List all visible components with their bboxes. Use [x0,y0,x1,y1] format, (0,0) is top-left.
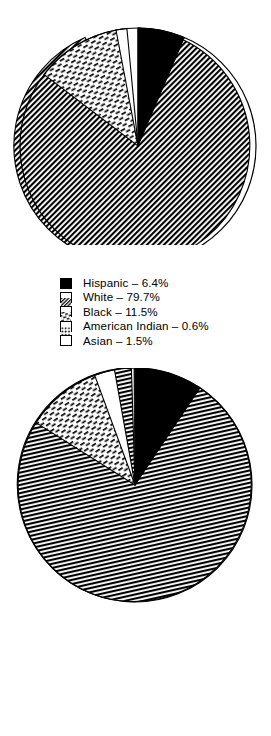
legend-1-row-hispanic: Hispanic – 6.4% [60,276,260,290]
legend-swatch-hispanic-icon [60,278,72,289]
legend-swatch-asian-icon [60,335,72,346]
pie-chart-1 [0,0,271,245]
legend-1-label-hispanic: Hispanic – 6.4% [83,276,169,290]
pie-chart-2-svg [0,368,271,613]
legend-1-label-asian: Asian – 1.5% [83,334,153,348]
legend-1: Hispanic – 6.4% White – 79.7% [60,276,260,348]
legend-swatch-black-icon [60,306,72,317]
pie-figure-2: Hispanic – 9% White – 75.6% [0,368,271,736]
legend-swatch-white-icon [60,292,72,303]
legend-1-label-american-indian: American Indian – 0.6% [83,319,209,333]
legend-1-label-white: White – 79.7% [83,290,160,304]
legend-swatch-american-indian-icon [60,321,72,332]
legend-1-label-black: Black – 11.5% [83,305,158,319]
legend-1-row-american-indian: American Indian – 0.6% [60,319,260,333]
pie-figure-1: Hispanic – 6.4% White – 79.7% [0,0,271,368]
pie-chart-1-svg [0,0,271,245]
pie-chart-2 [0,368,271,613]
legend-1-row-asian: Asian – 1.5% [60,334,260,348]
legend-1-row-black: Black – 11.5% [60,305,260,319]
legend-1-row-white: White – 79.7% [60,290,260,304]
